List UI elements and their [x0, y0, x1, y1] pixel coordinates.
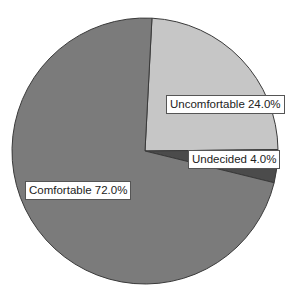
- pie-chart: [0, 0, 285, 298]
- pie-slice-uncomfortable: [145, 18, 278, 151]
- label-uncomfortable: Uncomfortable 24.0%: [166, 95, 285, 114]
- label-undecided: Undecided 4.0%: [188, 150, 280, 169]
- label-comfortable: Comfortable 72.0%: [25, 181, 131, 200]
